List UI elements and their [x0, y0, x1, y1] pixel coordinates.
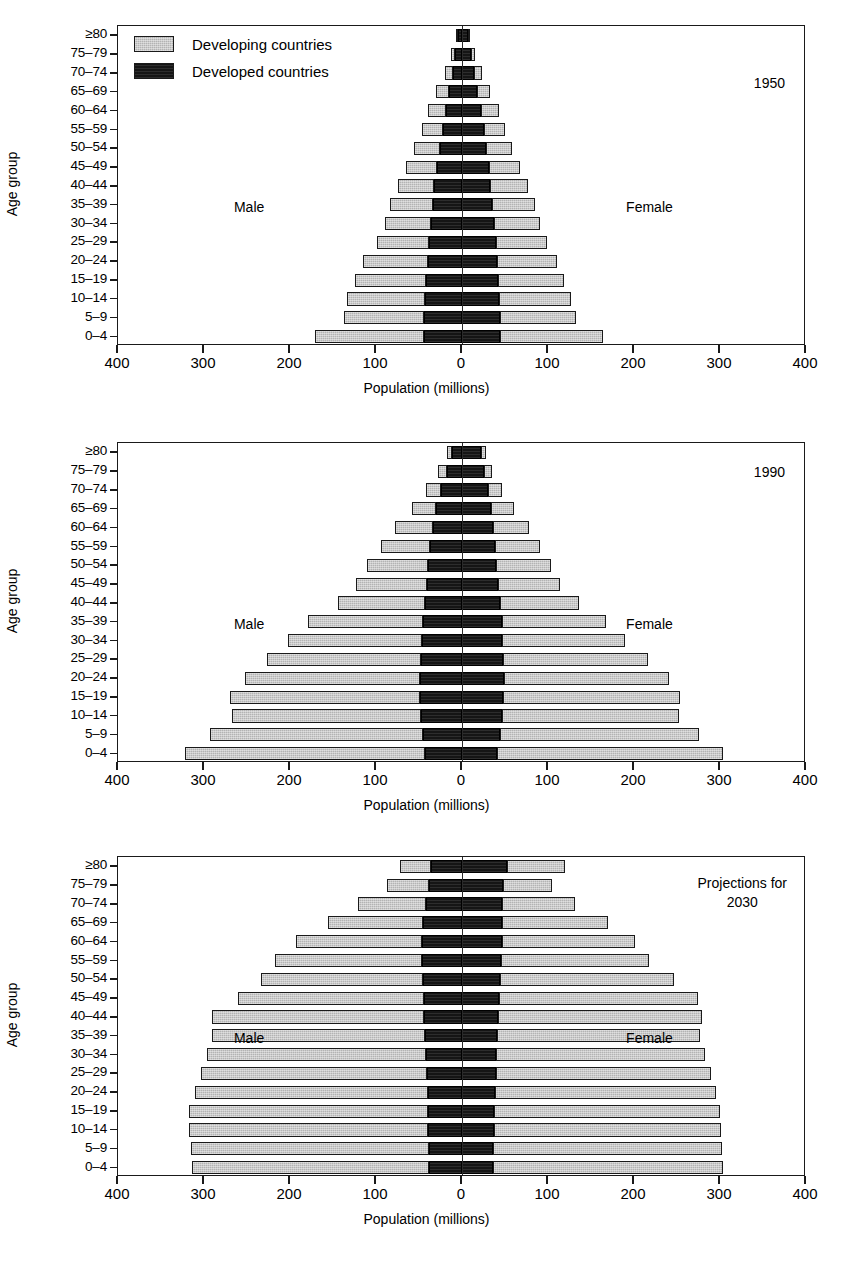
legend-swatch-developing — [134, 36, 174, 52]
x-tick-label: 400 — [104, 1185, 129, 1202]
panel-year-label: 1950 — [754, 75, 785, 91]
bar-segment-male-developing — [406, 161, 437, 174]
y-tick-label: 50–54 — [70, 971, 107, 985]
bar-segment-male-developed — [428, 1105, 462, 1118]
y-axis: ≥8075–7970–7465–6960–6455–5950–5445–4940… — [0, 856, 117, 1176]
y-tick-mark — [110, 336, 117, 338]
bar-segment-female-developed — [462, 1067, 496, 1080]
bar-segment-female-developing — [496, 1067, 711, 1080]
bar-segment-female-developed — [462, 992, 499, 1005]
bar-male-10–14 — [232, 709, 462, 722]
y-tick-label: 55–59 — [70, 539, 107, 553]
bar-female-50–54 — [462, 142, 512, 155]
bar-male-≥80 — [447, 446, 462, 459]
bar-segment-male-developed — [429, 236, 462, 249]
zero-axis-line — [462, 857, 463, 1175]
bar-male-20–24 — [363, 255, 462, 268]
panel-inner: ≥8075–7970–7465–6960–6455–5950–5445–4940… — [0, 856, 853, 1236]
bar-male-75–79 — [451, 48, 462, 61]
y-tick-label: 10–14 — [70, 1122, 107, 1136]
y-tick-mark — [110, 922, 117, 924]
bar-segment-female-developing — [496, 559, 551, 572]
y-tick-label: 30–34 — [70, 1047, 107, 1061]
y-tick-label: 75–79 — [70, 877, 107, 891]
bar-female-10–14 — [462, 709, 679, 722]
bar-female-55–59 — [462, 123, 505, 136]
y-tick-mark — [110, 72, 117, 74]
table-row — [118, 292, 804, 305]
y-tick-label: 35–39 — [70, 614, 107, 628]
y-tick-label: 55–59 — [70, 953, 107, 967]
bar-female-65–69 — [462, 916, 608, 929]
bar-segment-female-developing — [495, 1086, 716, 1099]
bar-segment-male-developing — [185, 747, 425, 760]
y-tick-mark — [110, 147, 117, 149]
bar-segment-female-developing — [503, 691, 679, 704]
bar-segment-female-developing — [494, 1105, 720, 1118]
bar-female-50–54 — [462, 559, 551, 572]
female-label: Female — [626, 616, 673, 632]
bar-segment-female-developing — [502, 916, 608, 929]
bar-male-45–49 — [406, 161, 462, 174]
y-tick-mark — [110, 658, 117, 660]
y-tick-mark — [110, 204, 117, 206]
y-tick-label: 30–34 — [70, 633, 107, 647]
bar-segment-male-developed — [422, 935, 462, 948]
bar-male-30–34 — [207, 1048, 462, 1061]
y-tick-mark — [110, 1054, 117, 1056]
bar-segment-female-developed — [462, 521, 493, 534]
bar-segment-male-developed — [428, 255, 462, 268]
bar-segment-male-developed — [423, 615, 462, 628]
table-row — [118, 672, 804, 685]
bar-segment-male-developed — [423, 728, 462, 741]
y-tick-mark — [110, 508, 117, 510]
table-row — [118, 1161, 804, 1174]
bar-female-≥80 — [462, 446, 486, 459]
bar-segment-male-developing — [230, 691, 420, 704]
y-tick-mark — [110, 715, 117, 717]
bar-segment-male-developed — [424, 992, 462, 1005]
bar-segment-male-developed — [423, 916, 462, 929]
bar-segment-female-developed — [462, 653, 503, 666]
bar-female-70–74 — [462, 483, 502, 496]
bar-male-45–49 — [356, 578, 462, 591]
bar-female-5–9 — [462, 728, 699, 741]
x-tick-label: 200 — [620, 1185, 645, 1202]
bar-female-70–74 — [462, 66, 482, 79]
bar-segment-female-developing — [493, 1142, 722, 1155]
y-tick-mark — [110, 298, 117, 300]
bar-male-50–54 — [414, 142, 462, 155]
bar-segment-male-developed — [429, 879, 462, 892]
x-tick-mark — [374, 345, 376, 353]
table-row — [118, 179, 804, 192]
bar-female-45–49 — [462, 161, 520, 174]
x-tick-label: 400 — [792, 771, 817, 788]
y-tick-mark — [110, 1016, 117, 1018]
x-tick-label: 100 — [534, 771, 559, 788]
bar-segment-male-developing — [189, 1123, 428, 1136]
bar-segment-female-developing — [484, 123, 506, 136]
bar-female-0–4 — [462, 330, 603, 343]
legend-label-developed: Developed countries — [192, 62, 329, 81]
bar-segment-male-developed — [428, 1086, 462, 1099]
y-tick-label: 60–64 — [70, 103, 107, 117]
bar-segment-male-developing — [367, 559, 429, 572]
x-tick-label: 400 — [792, 1185, 817, 1202]
x-tick-mark — [718, 1176, 720, 1184]
bar-segment-female-developing — [498, 1010, 702, 1023]
bar-segment-male-developed — [429, 1142, 462, 1155]
x-tick-mark — [374, 762, 376, 770]
bar-segment-female-developed — [462, 615, 502, 628]
bar-segment-male-developing — [189, 1105, 428, 1118]
y-tick-mark — [110, 527, 117, 529]
x-tick-label: 100 — [362, 354, 387, 371]
y-tick-mark — [110, 489, 117, 491]
bar-female-40–44 — [462, 179, 528, 192]
y-tick-mark — [110, 185, 117, 187]
table-row — [118, 274, 804, 287]
y-tick-mark — [110, 451, 117, 453]
chart-panel-1: ≥8075–7970–7465–6960–6455–5950–5445–4940… — [0, 25, 853, 405]
bar-male-65–69 — [412, 502, 462, 515]
x-tick-label: 0 — [457, 354, 465, 371]
bar-segment-male-developed — [425, 1029, 462, 1042]
